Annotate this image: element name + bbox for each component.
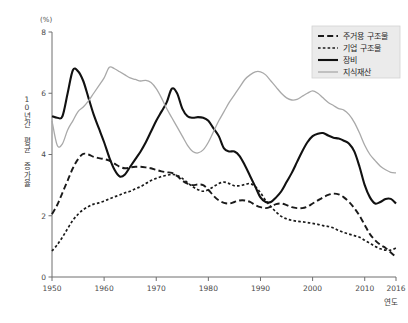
growth-rate-line-chart: 0246819501960197019801990200020102016 주거… — [0, 0, 408, 323]
y-axis-tick-label: 2 — [41, 212, 46, 221]
legend-label-1: 주거용 구조물 — [343, 32, 388, 41]
series-group — [52, 67, 396, 257]
y-axis-title-char: 율 — [20, 180, 34, 188]
chart-canvas: 0246819501960197019801990200020102016 주거… — [0, 0, 408, 323]
x-axis-title: 연도 — [384, 298, 398, 307]
x-axis-tick-label: 1970 — [147, 284, 166, 293]
x-axis-tick-label: 1980 — [199, 284, 218, 293]
chart-legend: 주거용 구조물기업 구조물장비지식재산 — [312, 26, 400, 78]
x-axis-tick-label: 2010 — [355, 284, 374, 293]
x-axis-tick-label: 1990 — [251, 284, 270, 293]
series-line-2 — [52, 174, 396, 251]
y-axis-tick-label: 8 — [41, 28, 46, 37]
series-line-1 — [52, 154, 396, 258]
legend-label-4: 지식재산 — [343, 67, 372, 77]
y-axis-tick-label: 0 — [41, 273, 46, 282]
legend-label-2: 기업 구조물 — [343, 44, 381, 53]
y-axis-tick-label: 4 — [41, 150, 46, 159]
legend-label-3: 장비 — [343, 55, 357, 65]
y-axis-tick-label: 6 — [41, 89, 46, 98]
series-line-3 — [52, 68, 396, 203]
y-axis-unit-label: (%) — [40, 16, 52, 24]
x-axis-tick-label: 2016 — [386, 284, 405, 293]
x-axis-tick-label: 2000 — [303, 284, 322, 293]
x-axis-tick-label: 1960 — [95, 284, 114, 293]
x-axis-tick-label: 1950 — [42, 284, 61, 293]
series-line-4 — [52, 67, 396, 173]
y-axis-title: 10년간 평균 증가율 — [20, 96, 34, 188]
